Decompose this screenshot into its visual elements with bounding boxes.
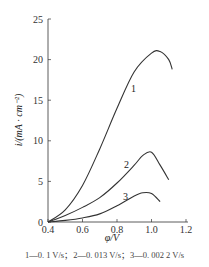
curve-3 <box>48 192 160 222</box>
y-tick-label: 10 <box>33 135 43 146</box>
x-axis-label: φ/V <box>105 232 121 243</box>
y-tick-label: 0 <box>38 217 43 228</box>
curve-2-label: 2 <box>124 159 129 170</box>
x-tick-label: 0.4 <box>42 224 55 235</box>
x-tick-label: 1.2 <box>180 224 193 235</box>
chart: 0.40.60.81.01.20510152025 1 2 3 φ/V i/(m… <box>0 0 209 267</box>
x-tick-label: 1.0 <box>145 224 158 235</box>
x-tick-label: 0.6 <box>76 224 89 235</box>
y-tick-label: 15 <box>33 95 43 106</box>
y-tick-label: 20 <box>33 54 43 65</box>
curve-2 <box>48 152 169 222</box>
curve-3-label: 3 <box>123 191 128 202</box>
curve-1 <box>48 51 172 222</box>
figure-caption: 1—0. 1 V/s；2—0. 013 V/s；3—0. 002 2 V/s <box>0 248 209 260</box>
curve-1-label: 1 <box>131 83 136 94</box>
y-tick-label: 25 <box>33 14 43 25</box>
y-tick-label: 5 <box>38 176 43 187</box>
y-axis-label: i/(mA · cm⁻²) <box>13 93 25 146</box>
